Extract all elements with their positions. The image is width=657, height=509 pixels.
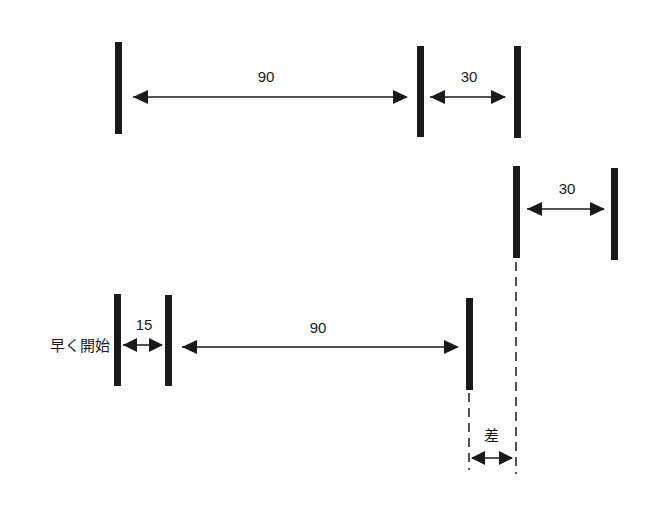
row3-arrow-15 [123, 338, 163, 352]
row1-arrow-90 [133, 90, 408, 104]
row3-label-15: 15 [136, 316, 153, 333]
row-1: 90 30 [115, 42, 521, 138]
row-3: 早く開始 15 90 [50, 294, 473, 390]
row1-label-90: 90 [258, 68, 275, 85]
row1-bar-start [115, 42, 122, 134]
row1-label-30: 30 [461, 68, 478, 85]
row3-arrow-90 [182, 340, 459, 354]
row2-arrow-30 [527, 202, 605, 216]
row2-bar-end [611, 168, 618, 260]
row1-bar-mid [417, 46, 424, 137]
early-start-label: 早く開始 [50, 337, 110, 355]
timeline-diagram: 90 30 30 早く開始 15 [0, 0, 657, 509]
row3-bar-end [466, 298, 473, 390]
row2-bar-start [513, 166, 520, 258]
row1-arrow-30 [430, 90, 506, 104]
row3-label-90: 90 [310, 319, 327, 336]
row3-bar-early-start [114, 294, 121, 386]
row1-bar-end [514, 46, 521, 138]
row3-bar-start [165, 295, 172, 386]
difference-guides: 差 [469, 262, 516, 474]
difference-label: 差 [484, 427, 499, 445]
row2-label-30: 30 [559, 180, 576, 197]
row-2: 30 [513, 166, 618, 260]
difference-arrow [471, 451, 513, 465]
